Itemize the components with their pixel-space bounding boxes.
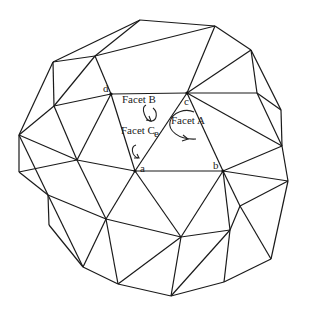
mesh-edge — [215, 26, 251, 50]
facet-b-rotation-arrow-icon — [144, 105, 157, 121]
mesh-edge — [48, 195, 49, 225]
mesh-edge — [19, 106, 54, 135]
mesh-edge — [48, 195, 106, 219]
vertex-b — [221, 169, 224, 172]
mesh-edge — [271, 181, 288, 259]
mesh-edge — [19, 62, 53, 135]
mesh-edge — [223, 171, 288, 181]
facet-label: Facet C — [121, 124, 155, 136]
mesh-edge — [171, 230, 230, 296]
mesh-edge — [83, 219, 106, 267]
mesh-edge — [181, 230, 230, 237]
mesh-edge — [118, 237, 181, 284]
mesh-edge — [224, 230, 230, 282]
geodesic-mesh-diagram: dcabFacet AFacet BFacet Ce — [0, 0, 334, 312]
facet-c-rotation-arrow-icon — [132, 145, 139, 158]
mesh-edge — [77, 160, 106, 219]
mesh-edge — [19, 160, 77, 172]
vertex-label-a: a — [140, 162, 145, 174]
vertex-label-b: b — [213, 159, 219, 171]
mesh-edge — [282, 146, 288, 181]
vertex-label-d: d — [103, 82, 109, 94]
mesh-edge — [230, 206, 240, 230]
mesh-edge — [171, 282, 224, 296]
vertex-a — [133, 169, 136, 172]
mesh-edge — [224, 259, 271, 282]
mesh-edge — [223, 146, 282, 171]
mesh-edge — [77, 94, 111, 160]
mesh-edge — [106, 219, 118, 284]
facet-label: Facet A — [171, 114, 205, 126]
mesh-edge — [223, 171, 230, 230]
mesh-edge — [240, 206, 271, 259]
mesh-edge — [77, 160, 135, 171]
mesh-edge — [257, 93, 282, 146]
mesh-edge — [140, 20, 215, 26]
vertex-d — [109, 92, 112, 95]
mesh-edge — [83, 267, 118, 284]
vertex-label-c: c — [184, 95, 189, 107]
mesh-edge — [281, 110, 282, 146]
mesh-edge — [19, 135, 48, 195]
mesh-edge — [118, 284, 171, 296]
mesh-edge — [240, 181, 288, 206]
mesh-edge — [106, 171, 135, 219]
mesh-edge — [53, 62, 54, 106]
mesh-edges — [19, 20, 288, 296]
facet-label: Facet B — [122, 93, 156, 105]
mesh-edge — [181, 171, 223, 237]
facet-label: e — [154, 127, 159, 139]
mesh-edge — [19, 172, 48, 195]
diagram-labels: dcabFacet AFacet BFacet Ce — [103, 82, 219, 174]
